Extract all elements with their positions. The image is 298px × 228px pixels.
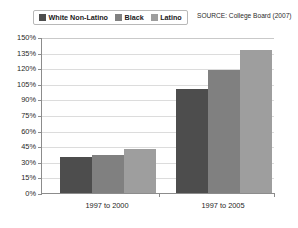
y-tick-mark [38, 194, 42, 195]
y-tick-label: 120% [17, 65, 36, 72]
legend-item-latino: Latino [151, 14, 182, 21]
x-axis-labels: 1997 to 2000 1997 to 2005 [41, 202, 274, 214]
y-tick-label: 90% [21, 97, 36, 104]
legend-label: Black [124, 14, 143, 21]
y-tick-mark [38, 85, 42, 86]
y-tick-label: 45% [21, 143, 36, 150]
y-tick-mark [38, 100, 42, 101]
chart-figure: White Non-Latino Black Latino SOURCE: Co… [0, 0, 298, 228]
category-label-1997-2000: 1997 to 2000 [85, 202, 128, 209]
legend-item-white-non-latino: White Non-Latino [39, 14, 108, 21]
y-tick-mark [38, 132, 42, 133]
y-tick-label: 15% [21, 175, 36, 182]
y-tick-mark [38, 163, 42, 164]
y-tick-mark [38, 178, 42, 179]
y-tick-mark [38, 116, 42, 117]
bar-1997-2000-latino [124, 149, 156, 193]
y-axis-labels: 150% 135% 120% 105% 90% 75% 60% 45% 30% … [0, 38, 36, 194]
legend-label: White Non-Latino [49, 14, 108, 21]
bar-1997-2000-white-non-latino [60, 157, 92, 193]
plot-area [41, 38, 274, 194]
square-swatch-icon [39, 14, 46, 21]
y-tick-label: 150% [17, 34, 36, 41]
category-separator-tick [159, 193, 160, 197]
square-swatch-icon [151, 14, 158, 21]
y-tick-label: 135% [17, 50, 36, 57]
plot-wrapper: 150% 135% 120% 105% 90% 75% 60% 45% 30% … [0, 30, 298, 228]
bar-1997-2005-black [208, 70, 240, 193]
y-tick-mark [38, 38, 42, 39]
gridline-150 [42, 38, 274, 39]
chart-header: White Non-Latino Black Latino SOURCE: Co… [0, 0, 298, 30]
y-tick-label: 30% [21, 159, 36, 166]
y-tick-label: 75% [21, 112, 36, 119]
square-swatch-icon [115, 14, 122, 21]
y-tick-label: 105% [17, 81, 36, 88]
y-tick-mark [38, 147, 42, 148]
y-tick-label: 60% [21, 128, 36, 135]
bar-1997-2000-black [92, 155, 124, 194]
source-annotation: SOURCE: College Board (2007) [197, 13, 292, 20]
chart-legend: White Non-Latino Black Latino [33, 10, 188, 25]
bar-1997-2005-white-non-latino [176, 89, 208, 193]
legend-item-black: Black [115, 14, 144, 21]
bar-1997-2005-latino [240, 50, 272, 194]
y-tick-mark [38, 69, 42, 70]
y-tick-label: 0% [25, 190, 36, 197]
x-axis-end-tick [274, 193, 275, 197]
category-label-1997-2005: 1997 to 2005 [201, 202, 244, 209]
legend-label: Latino [160, 14, 182, 21]
y-tick-mark [38, 54, 42, 55]
